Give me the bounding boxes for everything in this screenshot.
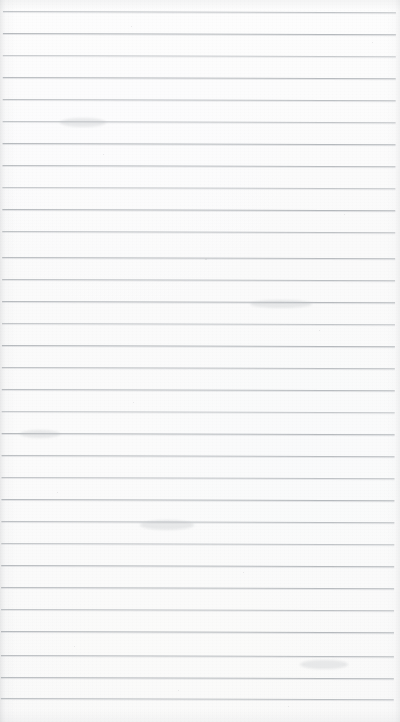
notepad-page — [0, 0, 400, 722]
writing-area[interactable] — [4, 4, 396, 718]
